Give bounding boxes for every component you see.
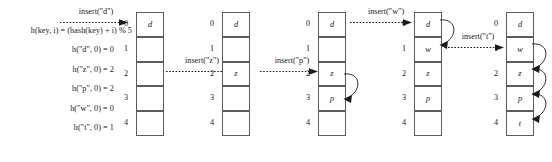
table-2-slot-1 <box>222 37 250 62</box>
table-3-slot-4 <box>318 111 346 136</box>
slot-index-4: 4 <box>490 111 502 136</box>
slot-index-4: 4 <box>120 111 132 136</box>
table-4-slot-1: w <box>414 37 442 62</box>
slot-index-0: 0 <box>120 12 132 37</box>
slot-index-1: 1 <box>490 37 502 62</box>
hash-computation-1: h("z", 0) = 2 <box>0 65 136 84</box>
table-1-slot-4 <box>136 111 164 136</box>
hash-computation-4: h("t", 0) = 1 <box>0 123 136 142</box>
slot-index-0: 0 <box>206 12 218 37</box>
hash-computation-3: h("w", 0) = 0 <box>0 104 136 123</box>
table-4-slot-4 <box>414 111 442 136</box>
slot-index-1: 1 <box>206 37 218 62</box>
table-5-slot-0: d <box>506 12 534 37</box>
hash-table-1: 0 1 2 3 4 d <box>136 12 164 136</box>
slot-index-3: 3 <box>302 86 314 111</box>
table-3-slot-2: z <box>318 62 346 87</box>
slot-index-0: 0 <box>398 12 410 37</box>
slot-index-3: 3 <box>120 86 132 111</box>
slot-index-2: 2 <box>206 62 218 87</box>
insert-label-t: insert("t") <box>440 31 516 42</box>
insert-arrow-group-t: insert("t") <box>440 31 516 53</box>
slot-index-4: 4 <box>302 111 314 136</box>
slot-index-2: 2 <box>398 62 410 87</box>
table-3-slot-0: d <box>318 12 346 37</box>
table-2-slot-2: z <box>222 62 250 87</box>
table-4-slot-3: p <box>414 86 442 111</box>
insert-arrow-icon-t <box>440 42 516 53</box>
hash-table-2: 0 1 2 3 4 d z <box>222 12 250 136</box>
slot-index-1: 1 <box>398 37 410 62</box>
slot-index-1: 1 <box>302 37 314 62</box>
slot-index-2: 2 <box>302 62 314 87</box>
slot-index-4: 4 <box>398 111 410 136</box>
insert-arrow-icon-w <box>348 17 424 28</box>
hash-computation-0: h("d", 0) = 0 <box>0 45 136 64</box>
table-2-slot-4 <box>222 111 250 136</box>
slot-index-3: 3 <box>490 86 502 111</box>
table-1-slot-3 <box>136 86 164 111</box>
table-4-slot-0: d <box>414 12 442 37</box>
diagram-canvas: h(key, i) = (hash(key) + i) % 5 h("d", 0… <box>0 0 552 162</box>
slot-index-3: 3 <box>206 86 218 111</box>
table-2-slot-3 <box>222 86 250 111</box>
slot-index-3: 3 <box>398 86 410 111</box>
hash-function-formula: h(key, i) = (hash(key) + i) % 5 <box>0 26 136 45</box>
table-3-slot-3: p <box>318 86 346 111</box>
table-3-slot-1 <box>318 37 346 62</box>
table-2-slot-0: d <box>222 12 250 37</box>
table-5-slot-4: t <box>506 111 534 136</box>
hash-table-5: 0 1 2 3 4 d w z p t <box>506 12 534 136</box>
slot-index-0: 0 <box>490 12 502 37</box>
table-1-slot-1 <box>136 37 164 62</box>
slot-index-4: 4 <box>206 111 218 136</box>
hash-table-3: 0 1 2 3 4 d z p <box>318 12 346 136</box>
slot-index-2: 2 <box>490 62 502 87</box>
table-5-slot-1: w <box>506 37 534 62</box>
slot-index-1: 1 <box>120 37 132 62</box>
table-1-slot-0: d <box>136 12 164 37</box>
slot-index-0: 0 <box>302 12 314 37</box>
hash-formula-block: h(key, i) = (hash(key) + i) % 5 h("d", 0… <box>0 26 136 142</box>
table-5-slot-2: z <box>506 62 534 87</box>
hash-computation-2: h("p", 0) = 2 <box>0 84 136 103</box>
insert-label-w: insert("w") <box>348 6 424 17</box>
table-5-slot-3: p <box>506 86 534 111</box>
table-1-slot-2 <box>136 62 164 87</box>
insert-arrow-group-w: insert("w") <box>348 6 424 28</box>
table-4-slot-2: z <box>414 62 442 87</box>
slot-index-2: 2 <box>120 62 132 87</box>
hash-table-4: 0 1 2 3 4 d w z p <box>414 12 442 136</box>
